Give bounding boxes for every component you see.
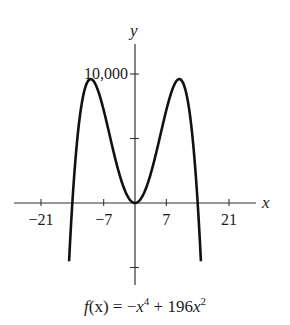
- x-axis-label: x: [261, 193, 270, 212]
- caption-exp2: 2: [200, 295, 206, 307]
- x-tick-label: 21: [221, 211, 237, 228]
- x-tick-label: 7: [162, 211, 170, 228]
- function-caption: f(x) = −x4 + 196x2: [0, 297, 290, 317]
- y-ticks: 10,000: [84, 65, 139, 268]
- caption-x1: x: [136, 297, 144, 316]
- x-tick-label: −21: [28, 211, 53, 228]
- x-tick-label: −7: [95, 211, 112, 228]
- function-graph: −21−7721 10,000 x y: [0, 0, 290, 325]
- caption-paren: (x): [89, 297, 109, 316]
- caption-equals: = −: [109, 297, 137, 316]
- y-axis-label: y: [128, 21, 138, 40]
- caption-plus: + 196: [149, 297, 193, 316]
